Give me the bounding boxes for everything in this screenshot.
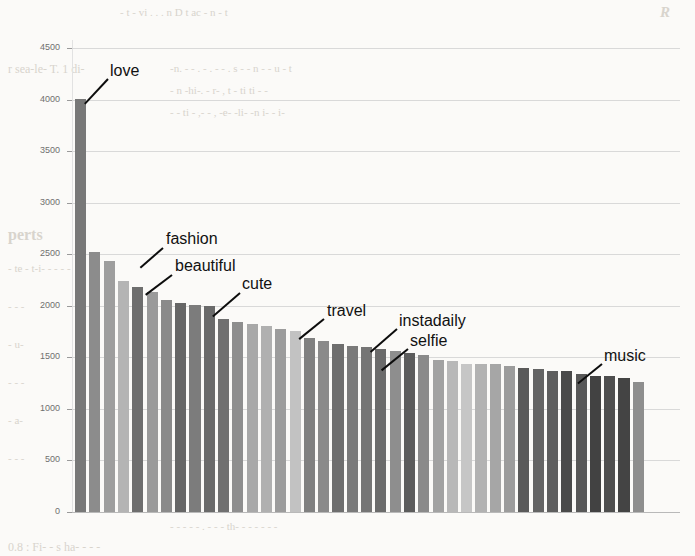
y-tick-label: 2500 [18, 249, 60, 258]
bar [576, 374, 587, 512]
bar [375, 349, 386, 512]
y-tick-label: 4000 [18, 95, 60, 104]
bar [518, 368, 529, 512]
annotation-label: fashion [166, 230, 218, 247]
bar [132, 287, 143, 512]
bar [533, 369, 544, 512]
y-tick-label: 3500 [18, 146, 60, 155]
y-tick-mark [67, 460, 72, 461]
annotation-leader-line [84, 78, 109, 104]
y-tick-label: 2000 [18, 301, 60, 310]
bar [504, 366, 515, 512]
bar [404, 353, 415, 512]
bar [618, 378, 629, 512]
y-tick-mark [67, 48, 72, 49]
bar [547, 371, 558, 512]
y-tick-label: 0 [18, 507, 60, 516]
y-tick-label: 3000 [18, 198, 60, 207]
bar [218, 319, 229, 512]
bar [261, 326, 272, 512]
annotation-label: selfie [410, 332, 447, 349]
y-tick-mark [67, 151, 72, 152]
bar [247, 324, 258, 512]
bar [447, 361, 458, 512]
annotation-label: travel [327, 302, 366, 319]
gridline [72, 100, 680, 101]
bar [633, 382, 644, 512]
annotation-label: instadaily [399, 312, 466, 329]
gridline [72, 254, 680, 255]
bar [604, 376, 615, 512]
y-tick-label: 1000 [18, 404, 60, 413]
bar [175, 303, 186, 512]
annotation-leader-line [145, 274, 173, 295]
gridline [72, 151, 680, 152]
y-tick-mark [67, 100, 72, 101]
chart-page: R- t - vi . . . n D t ac - n - tr sea-le… [0, 0, 695, 556]
bar [390, 351, 401, 512]
bar [118, 281, 129, 512]
annotation-label: cute [242, 275, 272, 292]
y-tick-mark [67, 203, 72, 204]
bar [204, 306, 215, 512]
axis-baseline [72, 512, 680, 513]
bar [433, 360, 444, 512]
bar [75, 99, 86, 512]
bar [304, 338, 315, 512]
y-tick-mark [67, 254, 72, 255]
bar [147, 292, 158, 512]
y-tick-mark [67, 357, 72, 358]
annotation-label: music [604, 347, 646, 364]
gridline [72, 48, 680, 49]
bar [590, 376, 601, 512]
bar [275, 329, 286, 512]
bar [189, 305, 200, 512]
bar [332, 344, 343, 512]
annotation-label: beautiful [175, 257, 236, 274]
bar [318, 341, 329, 512]
bar [89, 252, 100, 512]
y-tick-label: 1500 [18, 352, 60, 361]
bar [490, 364, 501, 512]
bar [104, 261, 115, 512]
annotation-leader-line [140, 247, 164, 268]
bar [290, 331, 301, 512]
bar [475, 364, 486, 512]
annotation-leader-line [299, 318, 325, 340]
bar-chart: 050010001500200025003000350040004500 lov… [0, 0, 695, 556]
y-tick-mark [67, 512, 72, 513]
bar [461, 364, 472, 512]
y-tick-label: 500 [18, 455, 60, 464]
bar [418, 355, 429, 512]
y-tick-mark [67, 306, 72, 307]
annotation-label: love [110, 62, 139, 79]
bar [161, 300, 172, 512]
bar [347, 346, 358, 512]
bar [361, 347, 372, 512]
bar [561, 371, 572, 512]
bar [232, 322, 243, 512]
y-axis-line [72, 40, 73, 513]
gridline [72, 203, 680, 204]
y-tick-label: 4500 [18, 43, 60, 52]
y-tick-mark [67, 409, 72, 410]
